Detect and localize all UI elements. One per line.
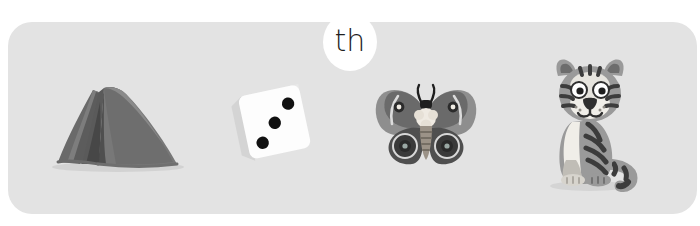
phoneme-badge[interactable]: th [323, 13, 377, 71]
tiger-illustration [536, 52, 644, 194]
phoneme-badge-label: th [335, 26, 366, 56]
dice-illustration [222, 76, 326, 172]
item-tent[interactable] [46, 74, 186, 174]
screenshot-root: th [0, 0, 700, 226]
item-moth[interactable] [372, 82, 480, 170]
item-tiger[interactable] [536, 52, 644, 194]
moth-illustration [372, 82, 480, 170]
tent-illustration [46, 74, 186, 174]
item-dice[interactable] [222, 76, 326, 172]
